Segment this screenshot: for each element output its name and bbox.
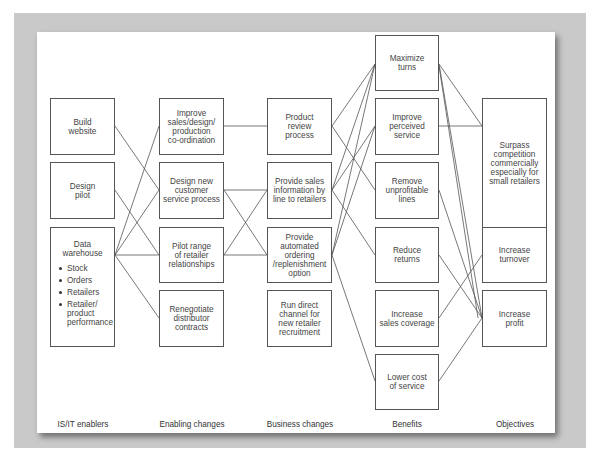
node-remove-unprofitable: Remove unprofitable lines <box>375 162 439 219</box>
column-header-business-changes: Business changes <box>255 420 345 429</box>
node-product-review: Product review process <box>267 98 332 155</box>
node-improve-sales: Improve sales/design/ production co-ordi… <box>159 98 224 155</box>
bullet-item: Retailers <box>59 288 112 297</box>
node-label: Increase turnover <box>499 246 530 264</box>
node-label: Maximize turns <box>390 54 425 72</box>
node-provide-automated: Provide automated ordering /replenishmen… <box>267 227 332 283</box>
column-header-is-it-enablers: IS/IT enablers <box>38 420 128 429</box>
column-header-benefits: Benefits <box>362 420 452 429</box>
node-label: Design new customer service process <box>163 177 220 204</box>
node-label: Design pilot <box>70 182 96 200</box>
node-provide-sales-info: Provide sales information by line to ret… <box>267 162 332 219</box>
node-label: Improve perceived service <box>389 113 425 140</box>
node-lower-cost: Lower cost of service <box>375 354 439 410</box>
node-label: Build website <box>69 118 97 136</box>
node-build-website: Build website <box>50 98 115 155</box>
node-reduce-returns: Reduce returns <box>375 227 439 283</box>
node-increase-turnover: Increase turnover <box>482 227 547 283</box>
node-improve-perceived: Improve perceived service <box>375 98 439 155</box>
column-header-objectives: Objectives <box>470 420 560 429</box>
node-design-pilot: Design pilot <box>50 162 115 219</box>
node-design-new-customer: Design new customer service process <box>159 162 224 219</box>
node-surpass: Surpass competition commercially especia… <box>482 98 547 228</box>
node-increase-profit: Increase profit <box>482 290 547 347</box>
node-label: Surpass competition commercially especia… <box>489 141 540 186</box>
node-run-direct: Run direct channel for new retailer recr… <box>267 290 332 347</box>
node-label: Improve sales/design/ production co-ordi… <box>168 109 216 145</box>
node-label: Reduce returns <box>393 246 421 264</box>
node-maximize-turns: Maximize turns <box>375 35 439 91</box>
node-label: Increase sales coverage <box>379 310 434 328</box>
node-pilot-range: Pilot range of retailer relationships <box>159 227 224 283</box>
node-label: Pilot range of retailer relationships <box>169 242 215 269</box>
node-label: Remove unprofitable lines <box>386 177 429 204</box>
node-label: Lower cost of service <box>387 373 427 391</box>
node-increase-sales-coverage: Increase sales coverage <box>375 290 439 347</box>
node-label: Provide sales information by line to ret… <box>273 177 326 204</box>
node-label: Renegotiate distributor contracts <box>169 305 213 332</box>
node-label: Increase profit <box>499 310 530 328</box>
node-label: Product review process <box>285 113 314 140</box>
node-label: Provide automated ordering /replenishmen… <box>273 233 327 278</box>
column-header-enabling-changes: Enabling changes <box>147 420 237 429</box>
bullet-item: Retailer/ product performance <box>59 300 112 327</box>
node-renegotiate: Renegotiate distributor contracts <box>159 290 224 347</box>
data-warehouse-list: Stock Orders Retailers Retailer/ product… <box>53 264 112 330</box>
node-label: Run direct channel for new retailer recr… <box>278 301 320 337</box>
bullet-item: Orders <box>59 276 112 285</box>
bullet-item: Stock <box>59 264 112 273</box>
node-label: Data warehouse <box>62 240 102 258</box>
node-data-warehouse: Data warehouse Stock Orders Retailers Re… <box>50 227 115 347</box>
